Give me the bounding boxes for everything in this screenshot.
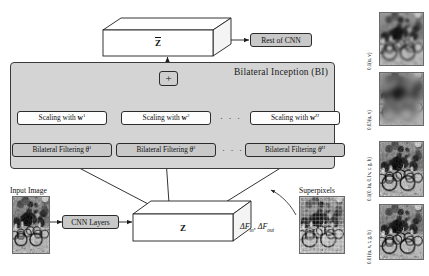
kernel-label-2: 0.05(u, v)	[366, 110, 372, 130]
input-image-thumbnail	[12, 196, 50, 254]
figure-canvas: Bilateral Inception (BI) + Z Z Rest of C…	[0, 0, 429, 276]
scaling-box-1-label: Scaling with w1	[39, 113, 86, 122]
bilateral-filtering-box-1[interactable]: Bilateral Filtering θ1	[12, 143, 112, 157]
rest-of-cnn-box[interactable]: Rest of CNN	[250, 33, 312, 47]
scaling-ellipsis: · · ·	[220, 113, 242, 123]
rest-of-cnn-label: Rest of CNN	[261, 36, 301, 45]
input-image-caption: Input Image	[10, 186, 47, 195]
scaling-box-1[interactable]: Scaling with w1	[17, 111, 107, 125]
cnn-layers-label: CNN Layers	[71, 218, 110, 227]
scaling-box-h-label: Scaling with wH	[271, 113, 319, 122]
filtering-ellipsis: · · ·	[222, 145, 244, 155]
delta-feature-label: ΔFin, ΔFout	[240, 222, 274, 233]
output-cube-label-text: Z	[155, 38, 161, 48]
kernel-thumbnail-1	[379, 12, 424, 66]
kernel-label-1: 0.1(u, v)	[366, 53, 372, 70]
bilateral-filtering-box-1-label: Bilateral Filtering θ1	[32, 145, 91, 154]
panel-title: Bilateral Inception (BI)	[234, 67, 328, 77]
kernel-label-3: 0.1(0.1u, 0.1v, r, g, b)	[366, 157, 372, 201]
bilateral-filtering-box-2-label: Bilateral Filtering θ2	[136, 145, 195, 154]
superpixels-caption: Superpixels	[299, 186, 335, 195]
output-cube-label: Z	[103, 30, 213, 56]
cnn-layers-box[interactable]: CNN Layers	[62, 215, 119, 229]
kernel-thumbnail-4	[379, 204, 424, 260]
bilateral-filtering-box-h-label: Bilateral Filtering θH	[265, 145, 325, 154]
input-cube-label: Z	[133, 214, 233, 241]
input-cube-label-text: Z	[180, 223, 186, 233]
bilateral-filtering-box-2[interactable]: Bilateral Filtering θ2	[116, 143, 216, 157]
scaling-box-2-label: Scaling with w2	[143, 113, 190, 122]
scaling-box-h[interactable]: Scaling with wH	[250, 111, 340, 125]
bilateral-filtering-box-h[interactable]: Bilateral Filtering θH	[245, 143, 345, 157]
kernel-thumbnail-2	[379, 72, 424, 126]
scaling-box-2[interactable]: Scaling with w2	[121, 111, 211, 125]
kernel-label-4: 0.01(u, v, r, g, b)	[366, 230, 372, 264]
plus-symbol: +	[165, 73, 171, 84]
superpixels-thumbnail	[299, 196, 345, 254]
sum-node: +	[159, 71, 178, 86]
kernel-thumbnail-3	[379, 141, 424, 197]
